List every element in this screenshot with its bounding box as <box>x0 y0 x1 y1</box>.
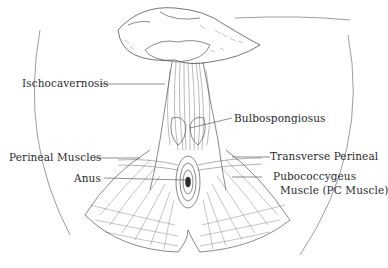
label-bulbospongiosus: Bulbospongiosus <box>234 112 326 124</box>
label-pc-muscle: Muscle (PC Muscle) <box>280 184 388 196</box>
label-perineal-muscles: Perineal Muscles <box>9 151 101 163</box>
label-transverse-perineal: Transverse Perineal <box>270 150 378 162</box>
label-anus: Anus <box>74 172 101 184</box>
label-pubococcygeus: Pubococcygeus <box>273 170 356 182</box>
label-ischocavernosis: Ischocavernosis <box>22 77 109 89</box>
